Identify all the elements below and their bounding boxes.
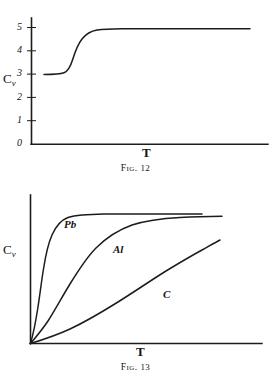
curve-label-c: C <box>163 289 170 300</box>
y-tick-label-0: 0 <box>8 138 22 148</box>
curve-label-pb: Pb <box>64 219 76 230</box>
y-axis-label-fig12: Cv <box>3 72 16 88</box>
figure-13-caption: Fig.13 <box>0 363 271 373</box>
figure-13-caption-number: 13 <box>140 362 150 372</box>
figure-13-caption-prefix: Fig. <box>121 362 138 372</box>
figure-12-plot <box>0 0 271 165</box>
curve-label-al: Al <box>113 244 123 255</box>
figure-12-caption-prefix: Fig. <box>121 163 138 173</box>
y-axis-label-sub-fig12: v <box>12 78 16 88</box>
figure-12-caption-number: 12 <box>140 163 150 173</box>
curve-c <box>31 240 221 344</box>
y-tick-label-1: 1 <box>8 115 22 125</box>
y-axis-label-sub-fig13: v <box>12 249 16 259</box>
figure-13-plot <box>0 185 271 355</box>
figure-13: Cv Pb Al C T Fig.13 <box>0 185 271 379</box>
y-axis-label-main-fig13: C <box>3 242 12 257</box>
figure-12-caption: Fig.12 <box>0 164 271 174</box>
y-tick-label-2: 2 <box>8 92 22 102</box>
y-tick-label-4: 4 <box>8 45 22 55</box>
x-axis-label-fig12: T <box>142 146 151 159</box>
curve-cv-transition <box>44 29 250 75</box>
y-tick-label-5: 5 <box>8 22 22 32</box>
y-axis-label-main-fig12: C <box>3 71 12 86</box>
figure-12: 5 4 3 2 1 0 Cv T Fig.12 <box>0 0 271 190</box>
y-axis-label-fig13: Cv <box>3 243 16 259</box>
x-axis-label-fig13: T <box>136 345 145 358</box>
curve-al <box>31 216 223 343</box>
curve-pb <box>31 214 203 344</box>
